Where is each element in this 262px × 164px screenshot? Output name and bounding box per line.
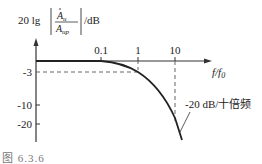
figure-caption: 图 6.3.6: [2, 149, 45, 164]
y-axis-label: 20 lg Au Aup /dB: [18, 8, 100, 36]
svg-text:Au: Au: [56, 10, 67, 23]
y-axis-arrow-icon: [34, 38, 39, 46]
x-axis-arrow-icon: [204, 59, 212, 64]
svg-text:/dB: /dB: [84, 14, 100, 26]
svg-text:20 lg: 20 lg: [18, 14, 41, 26]
annotation-leader: [180, 112, 190, 132]
y-tick-label: -20: [17, 118, 32, 130]
x-tick-label: 10: [170, 44, 182, 56]
x-tick-label: 0.1: [94, 44, 108, 56]
response-curve: [101, 61, 182, 140]
x-tick-label: 1: [135, 44, 141, 56]
x-axis-label: f/f0: [212, 66, 225, 80]
y-tick-label: -3: [23, 66, 33, 78]
svg-text:Aup: Aup: [55, 23, 70, 36]
y-tick-label: -10: [17, 99, 32, 111]
chart-canvas: 0.1 1 10 -3 -10 -20 f/f0 20 lg Au Aup /d…: [0, 0, 262, 164]
slope-annotation: -20 dB/十倍频: [185, 97, 251, 110]
